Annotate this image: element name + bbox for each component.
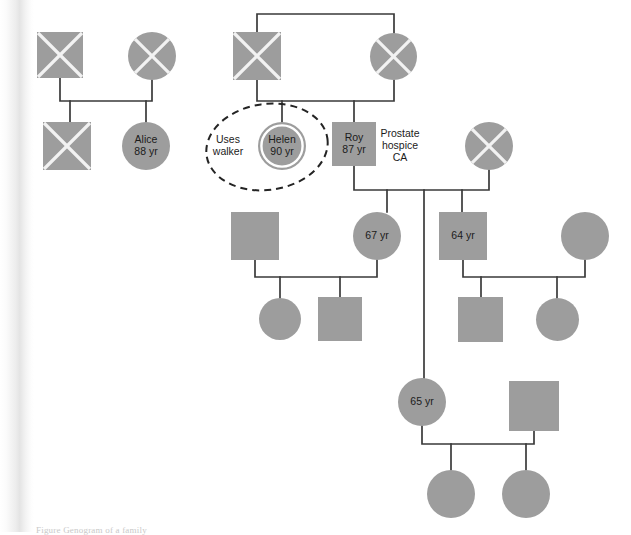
annotation-note_walker: Useswalker [212, 133, 244, 157]
male-square-symbol [509, 381, 559, 431]
connector-union-g3-left [255, 260, 377, 277]
male-square-symbol [231, 212, 279, 260]
female-circle-symbol [427, 470, 475, 518]
person-nodes-group: Alice88 yrHelen90 yrRoy87 yr67 yr64 yr65… [37, 32, 609, 518]
female-circle-symbol [502, 470, 550, 518]
connector-sibline-g1-left [70, 101, 146, 122]
person-node-g2_helen[interactable]: Helen90 yr [258, 122, 306, 170]
person-node-g5_f_b[interactable] [502, 470, 550, 518]
person-node-g1_f_right[interactable] [370, 33, 417, 80]
female-circle-symbol [536, 298, 579, 341]
person-node-g4_m_65sp[interactable] [509, 381, 559, 431]
person-node-g3_m_64[interactable]: 64 yr [439, 212, 487, 260]
person-node-g3_f_b[interactable] [561, 212, 609, 260]
person-node-g4_m_b[interactable] [458, 297, 503, 342]
person-node-g1_m_mid[interactable] [233, 32, 281, 80]
connector-lines-group [60, 14, 585, 470]
person-label: Helen90 yr [268, 133, 296, 157]
person-node-g3_f_67[interactable]: 67 yr [353, 212, 401, 260]
male-square-symbol [458, 297, 503, 342]
connector-union-g1-right [257, 14, 394, 33]
person-node-g4_f_a[interactable] [259, 298, 301, 340]
person-label: Roy87 yr [342, 131, 366, 155]
person-label: 64 yr [451, 229, 475, 241]
person-label: 67 yr [365, 229, 389, 241]
connector-drop-g1-mid [257, 80, 394, 101]
female-circle-symbol [259, 298, 301, 340]
person-node-g4_f_65[interactable]: 65 yr [398, 378, 446, 426]
person-node-g5_f_a[interactable] [427, 470, 475, 518]
person-node-g4_m_a[interactable] [318, 297, 362, 341]
person-label: 65 yr [410, 395, 434, 407]
annotation-notes-group: UseswalkerProstatehospiceCA [212, 127, 420, 163]
annotation-note_prostate: ProstatehospiceCA [380, 127, 419, 163]
person-node-g1_f_left[interactable] [128, 32, 176, 80]
person-node-g2_alice[interactable]: Alice88 yr [122, 122, 170, 170]
person-node-g2_roy[interactable]: Roy87 yr [332, 122, 376, 166]
person-node-g3_m_a[interactable] [231, 212, 279, 260]
person-node-g1_m_left[interactable] [37, 32, 83, 78]
male-square-symbol [318, 297, 362, 341]
connector-union-g1-left [60, 78, 152, 101]
person-node-g2_m_left[interactable] [43, 122, 91, 170]
person-label: Alice88 yr [134, 133, 158, 157]
connector-union-g3-right [463, 260, 585, 277]
person-node-g2_f_right[interactable] [465, 122, 513, 170]
connector-union-roy-right [354, 166, 489, 190]
female-circle-symbol [561, 212, 609, 260]
person-node-g4_f_b[interactable] [536, 298, 579, 341]
